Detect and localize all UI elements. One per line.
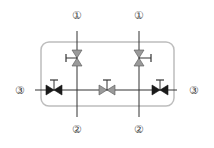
valve-bottom-left-icon[interactable] bbox=[46, 80, 62, 95]
port-label-top-right: ① bbox=[134, 9, 144, 22]
port-label-right: ③ bbox=[189, 84, 199, 97]
port-label-left: ③ bbox=[15, 84, 25, 97]
valve-bottom-middle-icon[interactable] bbox=[99, 80, 115, 95]
valve-manifold-diagram: ① ① ② ② ③ ③ bbox=[0, 0, 214, 148]
valve-bottom-right-icon[interactable] bbox=[152, 80, 168, 95]
valve-top-right-icon[interactable] bbox=[134, 50, 151, 66]
valve-top-left-icon[interactable] bbox=[66, 50, 82, 66]
port-label-top-left: ① bbox=[72, 9, 82, 22]
manifold-enclosure bbox=[41, 42, 174, 106]
port-label-bottom-right: ② bbox=[134, 123, 144, 136]
port-label-bottom-left: ② bbox=[72, 123, 82, 136]
diagram-svg: ① ① ② ② ③ ③ bbox=[0, 0, 214, 148]
